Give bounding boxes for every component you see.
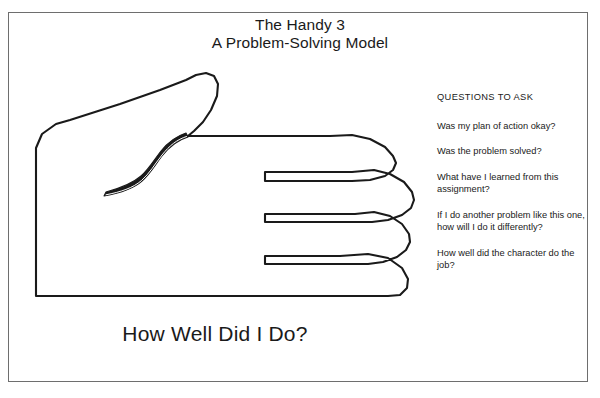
open-hand-icon xyxy=(0,0,430,310)
questions-heading: QUESTIONS TO ASK xyxy=(437,92,587,102)
questions-panel: QUESTIONS TO ASK Was my plan of action o… xyxy=(437,92,587,272)
hand-diagram xyxy=(0,0,430,310)
question-item: Was my plan of action okay? xyxy=(437,120,587,132)
question-item: What have I learned from this assignment… xyxy=(437,171,587,196)
poster-canvas: The Handy 3 A Problem-Solving Model How … xyxy=(0,0,600,398)
hand-outline-path xyxy=(36,73,414,296)
caption-text: How Well Did I Do? xyxy=(40,322,390,346)
question-item: If I do another problem like this one, h… xyxy=(437,209,587,234)
question-item: How well did the character do the job? xyxy=(437,247,587,272)
question-item: Was the problem solved? xyxy=(437,145,587,157)
